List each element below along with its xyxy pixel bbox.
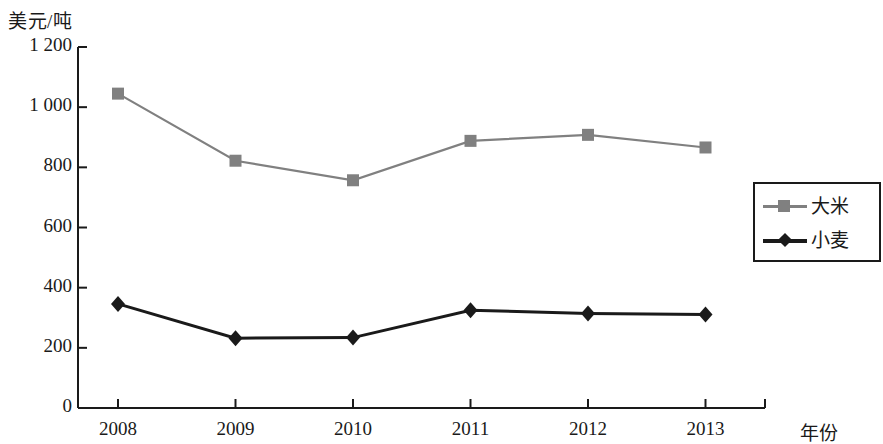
y-tick-label: 600: [0, 215, 72, 237]
y-tick-label: 200: [0, 335, 72, 357]
chart-legend: 大米 小麦: [753, 182, 881, 262]
x-tick-label: 2010: [308, 418, 398, 440]
y-tick-label: 400: [0, 275, 72, 297]
y-tick-label: 800: [0, 154, 72, 176]
legend-item-wheat: 小麦: [763, 226, 849, 254]
x-tick-label: 2011: [426, 418, 516, 440]
chart-container: 美元/吨 02004006008001 0001 200 20082009201…: [0, 0, 883, 444]
data-series-layer: [111, 88, 713, 347]
legend-label-wheat: 小麦: [811, 231, 849, 250]
legend-label-rice: 大米: [811, 197, 849, 216]
legend-swatch-rice: [763, 196, 807, 216]
y-tick-label: 1 000: [0, 94, 72, 116]
x-axis-title: 年份: [800, 418, 838, 444]
y-tick-label: 0: [0, 395, 72, 417]
x-tick-label: 2008: [73, 418, 163, 440]
legend-item-rice: 大米: [763, 192, 849, 220]
x-tick-label: 2009: [191, 418, 281, 440]
chart-plot-area: [0, 0, 883, 444]
x-tick-label: 2012: [543, 418, 633, 440]
square-marker-icon: [778, 200, 790, 212]
axis-lines: [78, 47, 765, 408]
diamond-marker-icon: [778, 233, 792, 247]
x-tick-label: 2013: [661, 418, 751, 440]
y-tick-label: 1 200: [0, 34, 72, 56]
legend-swatch-wheat: [763, 230, 807, 250]
